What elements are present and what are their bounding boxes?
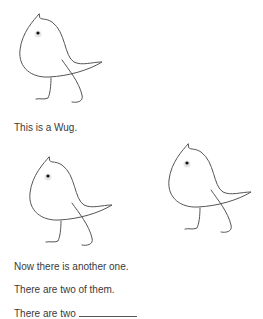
prompt-text: There are two bbox=[14, 308, 76, 319]
prompt-there-are-two: There are two bbox=[14, 307, 137, 319]
wug-drawing-1 bbox=[14, 10, 106, 108]
caption-this-is-a-wug: This is a Wug. bbox=[14, 122, 77, 134]
caption-two-of-them: There are two of them. bbox=[14, 284, 115, 296]
caption-another-one: Now there is another one. bbox=[14, 261, 129, 273]
answer-blank bbox=[79, 307, 137, 317]
wug-drawing-2 bbox=[24, 153, 116, 251]
wug-drawing-3 bbox=[163, 140, 255, 238]
